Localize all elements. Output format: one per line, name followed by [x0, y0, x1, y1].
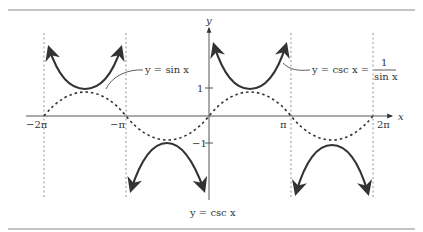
sin-label: y = sin x	[144, 64, 189, 75]
ytick-label-1: 1	[197, 83, 203, 94]
chart-canvas: y x −2π −π π 2π 1 −1 y = sin x y = csc x…	[0, 0, 423, 232]
csc-branch-3	[214, 45, 286, 89]
xtick-label-neg2pi: −2π	[26, 119, 48, 130]
caption: y = csc x	[189, 207, 236, 218]
x-axis-label: x	[398, 111, 404, 122]
csc-branch-2	[131, 143, 204, 190]
xtick-label-2pi: 2π	[377, 119, 390, 130]
xtick-label-pi: π	[280, 119, 287, 130]
xtick-label-negpi: −π	[110, 119, 125, 130]
csc-label: y = csc x =	[311, 64, 369, 75]
ytick-label-neg1: −1	[192, 138, 207, 149]
sin-leader	[106, 70, 143, 89]
csc-branch-4	[296, 145, 368, 193]
csc-fraction-denominator: sin x	[374, 71, 398, 82]
csc-leader	[283, 63, 310, 70]
y-axis-label: y	[205, 15, 212, 26]
csc-fraction-numerator: 1	[381, 57, 387, 68]
